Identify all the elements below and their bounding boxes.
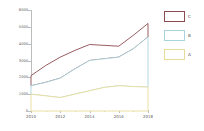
legend-swatch-b [164,30,185,41]
legend-item-c[interactable]: C [164,11,202,24]
legend-item-a[interactable]: A [164,49,202,62]
chart-legend: C B A [164,11,202,63]
chart-figure: 0100020003000400050006000 20102012201420… [0,0,204,131]
legend-item-b[interactable]: B [164,30,202,43]
legend-swatch-a [164,49,185,60]
legend-swatch-c [164,11,185,22]
legend-label-c: C [188,14,191,19]
legend-label-a: A [188,52,191,57]
legend-label-b: B [188,33,191,38]
